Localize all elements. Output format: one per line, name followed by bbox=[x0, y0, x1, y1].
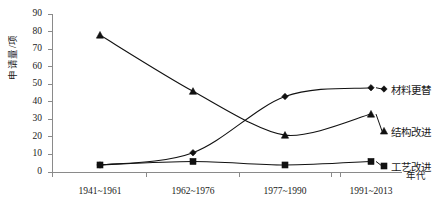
data-point-marker bbox=[381, 163, 387, 169]
data-point-marker bbox=[97, 162, 103, 168]
y-tick-label: 70 bbox=[16, 43, 42, 53]
data-point-marker bbox=[190, 149, 196, 155]
y-tick-label: 50 bbox=[16, 78, 42, 88]
y-tick-label: 40 bbox=[16, 96, 42, 106]
y-tick-label: 60 bbox=[16, 61, 42, 71]
data-point-marker bbox=[96, 31, 103, 38]
line-chart: 申请量/项 01020304050607080901941~19611962~1… bbox=[0, 0, 441, 218]
data-point-marker bbox=[368, 158, 374, 164]
y-tick-label: 90 bbox=[16, 8, 42, 18]
y-tick-label: 0 bbox=[16, 166, 42, 176]
data-point-marker bbox=[282, 93, 288, 99]
series-label-diamond: 材料更替 bbox=[391, 82, 431, 97]
series-label-triangle: 结构改进 bbox=[391, 124, 431, 139]
x-tick-label: 1962~1976 bbox=[171, 186, 214, 196]
data-point-marker bbox=[367, 110, 374, 117]
x-tick-label: 1941~1961 bbox=[78, 186, 121, 196]
y-tick-label: 20 bbox=[16, 131, 42, 141]
series-leader-line bbox=[376, 114, 382, 131]
data-point-marker bbox=[381, 86, 387, 92]
data-point-marker bbox=[368, 85, 374, 91]
data-point-marker bbox=[190, 158, 196, 164]
series-label-square: 工艺改进 bbox=[391, 159, 431, 174]
data-point-marker bbox=[282, 162, 288, 168]
x-tick-label: 1991~2013 bbox=[349, 186, 392, 196]
y-tick-label: 10 bbox=[16, 148, 42, 158]
series-line-diamond bbox=[100, 88, 371, 165]
data-point-marker bbox=[189, 88, 196, 95]
y-tick-label: 80 bbox=[16, 26, 42, 36]
series-line-triangle bbox=[100, 35, 371, 135]
x-tick-label: 1977~1990 bbox=[263, 186, 306, 196]
y-tick-label: 30 bbox=[16, 113, 42, 123]
